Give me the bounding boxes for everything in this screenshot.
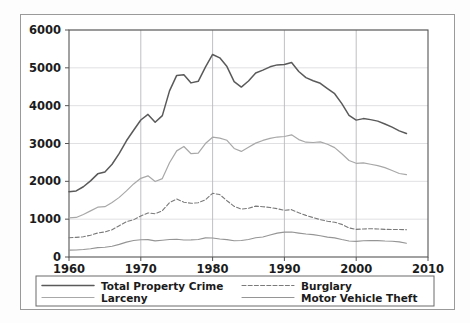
legend-label-total-property-crime: Total Property Crime <box>101 280 223 292</box>
y-tick-label: 4000 <box>29 99 61 113</box>
figure-canvas: 0100020003000400050006000 19601970198019… <box>0 0 470 323</box>
y-axis-tick-labels: 0100020003000400050006000 <box>29 23 61 264</box>
legend-label-burglary: Burglary <box>301 280 352 292</box>
x-tick-label: 1960 <box>53 262 85 276</box>
legend-label-larceny: Larceny <box>101 292 148 304</box>
x-tick-label: 1990 <box>268 262 300 276</box>
x-tick-label: 2010 <box>412 262 444 276</box>
y-tick-label: 6000 <box>29 23 61 37</box>
y-tick-label: 1000 <box>29 212 61 226</box>
x-tick-label: 1980 <box>197 262 229 276</box>
line-chart: 0100020003000400050006000 19601970198019… <box>0 0 470 323</box>
grid-horizontal <box>69 30 428 219</box>
x-axis-tick-labels: 196019701980199020002010 <box>53 262 444 276</box>
x-axis-ticks <box>69 257 428 261</box>
x-tick-label: 1970 <box>125 262 157 276</box>
y-axis-ticks <box>65 30 69 257</box>
y-tick-label: 5000 <box>29 61 61 75</box>
y-tick-label: 2000 <box>29 174 61 188</box>
x-tick-label: 2000 <box>340 262 372 276</box>
legend-label-motor-vehicle-theft: Motor Vehicle Theft <box>301 292 417 304</box>
y-tick-label: 3000 <box>29 137 61 151</box>
legend: Total Property CrimeBurglaryLarcenyMotor… <box>36 276 434 306</box>
